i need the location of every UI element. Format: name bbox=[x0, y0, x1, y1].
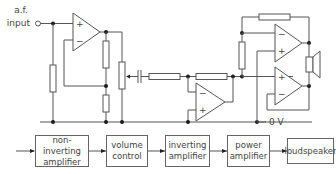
block-inverting-amplifier: invertingamplifier bbox=[165, 135, 210, 167]
block-label: amplifier bbox=[169, 151, 207, 161]
block-volume-control: volumecontrol bbox=[106, 135, 148, 167]
block-non-inverting-amplifier: non-invertingamplifier bbox=[35, 135, 89, 167]
opamp-1-minus: − bbox=[76, 36, 84, 46]
block-label: non-inverting bbox=[43, 135, 81, 156]
opamp-1-plus: + bbox=[76, 19, 84, 29]
input-resistor-icon bbox=[50, 65, 56, 92]
junction bbox=[51, 120, 55, 124]
divider-resistor-icon bbox=[103, 95, 109, 112]
junction bbox=[104, 84, 108, 88]
block-label: loudspeaker bbox=[285, 146, 336, 157]
feedback-resistor-2-icon bbox=[196, 74, 227, 80]
junction bbox=[104, 120, 108, 124]
coupling-capacitor-icon bbox=[138, 70, 141, 83]
loudspeaker-cone-icon bbox=[313, 51, 320, 78]
block-label: power bbox=[235, 140, 261, 150]
block-label: volume bbox=[111, 140, 143, 150]
opamp-3-minus: − bbox=[278, 29, 286, 39]
bridge-feedback-resistor-icon bbox=[259, 14, 290, 20]
wiper-arrow-icon bbox=[126, 75, 130, 79]
wire bbox=[64, 40, 106, 86]
junction bbox=[120, 120, 124, 124]
wire bbox=[188, 110, 196, 122]
block-label: amplifier bbox=[43, 157, 81, 167]
block-label: inverting bbox=[169, 140, 207, 150]
junction bbox=[186, 120, 190, 124]
block-loudspeaker: loudspeaker bbox=[287, 138, 334, 164]
opamp-2-minus: − bbox=[199, 88, 207, 98]
bridge-input-resistor-icon bbox=[239, 42, 245, 69]
input-label-line2: input bbox=[7, 18, 31, 28]
volume-potentiometer-icon bbox=[119, 62, 125, 89]
wire bbox=[188, 77, 196, 93]
loudspeaker-icon bbox=[306, 57, 313, 72]
input-resistor-2-icon bbox=[149, 74, 180, 80]
block-label: amplifier bbox=[230, 151, 268, 161]
input-terminal-icon bbox=[36, 21, 41, 26]
opamp-2-plus: + bbox=[199, 105, 207, 115]
wire bbox=[257, 51, 275, 122]
wire bbox=[225, 77, 233, 103]
block-label: control bbox=[112, 151, 141, 161]
block-power-amplifier: poweramplifier bbox=[227, 135, 270, 167]
opamp-4-minus: − bbox=[278, 89, 286, 99]
opamp-3-plus: + bbox=[278, 46, 286, 56]
input-label-line1: a.f. bbox=[14, 5, 28, 15]
opamp-4-plus: + bbox=[278, 72, 286, 82]
feedback-resistor-icon bbox=[103, 41, 109, 68]
ground-label: 0 V bbox=[269, 117, 285, 127]
